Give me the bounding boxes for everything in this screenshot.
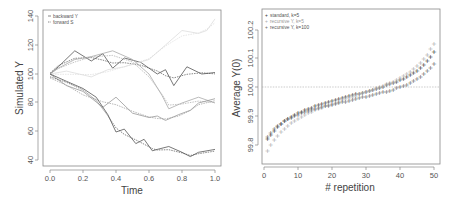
backward-y-line <box>50 74 215 120</box>
left-x-tick-label: 0.8 <box>177 174 187 183</box>
right-y-tick-label: 100.2 <box>246 21 255 40</box>
right-y-axis-title: Average Y(0) <box>231 59 242 118</box>
legend-plus-icon: + <box>265 25 268 30</box>
left-x-tick-label: 0.0 <box>45 174 55 183</box>
left-x-tick-label: 0.4 <box>111 174 121 183</box>
left-y-tick-label: 40 <box>26 156 35 164</box>
left-y-tick-label: 120 <box>26 39 35 52</box>
right-plot-points: ++++++++++++++++++++++++++++++++++++++++… <box>265 40 437 155</box>
right-x-axis-title: # repetition <box>325 182 374 193</box>
left-x-tick-label: 0.2 <box>78 174 88 183</box>
right-y-axis: 99.8 99.9 100.0 100.1 100.2 <box>246 21 258 153</box>
left-plot: 40 60 80 100 120 140 Simulated Y 0.0 0.2… <box>14 10 221 196</box>
right-y-tick-label: 99.8 <box>246 138 255 153</box>
legend-plus-icon: + <box>265 13 268 18</box>
left-x-tick-label: 0.6 <box>144 174 154 183</box>
legend-label-forward-s: forward S <box>53 20 74 25</box>
right-x-tick-label: 10 <box>294 171 302 180</box>
left-x-axis: 0.0 0.2 0.4 0.6 0.8 1.0 <box>45 170 220 183</box>
legend-label-recursive-k100: recursive Y, k=100 <box>270 25 309 30</box>
left-y-axis-title: Simulated Y <box>14 61 25 115</box>
legend-plus-icon: + <box>265 19 268 24</box>
right-x-tick-label: 50 <box>430 171 438 180</box>
figure-canvas: 40 60 80 100 120 140 Simulated Y 0.0 0.2… <box>0 0 453 204</box>
right-plot-frame <box>262 9 440 164</box>
forward-s-line <box>50 55 215 105</box>
legend-label-backward-y: backward Y <box>53 14 79 19</box>
right-x-tick-label: 0 <box>262 171 266 180</box>
right-plot: ++++++++++++++++++++++++++++++++++++++++… <box>231 9 440 193</box>
plus-marker-icon: + <box>431 40 436 48</box>
right-x-axis: 0 10 20 30 40 50 <box>262 167 438 180</box>
right-y-tick-label: 100.0 <box>246 78 255 97</box>
left-y-tick-label: 60 <box>26 127 35 135</box>
left-legend: backward Y forward S <box>48 14 79 25</box>
figure: 40 60 80 100 120 140 Simulated Y 0.0 0.2… <box>0 0 453 204</box>
left-x-tick-label: 1.0 <box>210 174 220 183</box>
right-y-tick-label: 100.1 <box>246 49 255 68</box>
right-legend: + standard, k=5 + recursive Y, k=5 + rec… <box>265 13 309 30</box>
left-y-tick-label: 140 <box>26 10 35 23</box>
left-y-tick-label: 100 <box>26 68 35 81</box>
right-x-tick-label: 30 <box>362 171 370 180</box>
forward-s-line <box>50 23 215 75</box>
backward-y-line <box>50 51 215 86</box>
right-x-tick-label: 20 <box>328 171 336 180</box>
forward-s-line <box>50 58 215 78</box>
legend-label-recursive-k5: recursive Y, k=5 <box>270 19 304 24</box>
left-y-tick-label: 80 <box>26 98 35 106</box>
plus-marker-icon: + <box>431 60 436 68</box>
backward-y-line <box>50 51 215 109</box>
left-plot-lines <box>50 19 215 157</box>
right-y-tick-label: 99.9 <box>246 109 255 124</box>
left-x-axis-title: Time <box>121 185 143 196</box>
legend-label-standard: standard, k=5 <box>270 13 300 18</box>
backward-y-line <box>50 74 215 157</box>
left-y-axis: 40 60 80 100 120 140 <box>26 10 38 164</box>
right-x-tick-label: 40 <box>396 171 404 180</box>
